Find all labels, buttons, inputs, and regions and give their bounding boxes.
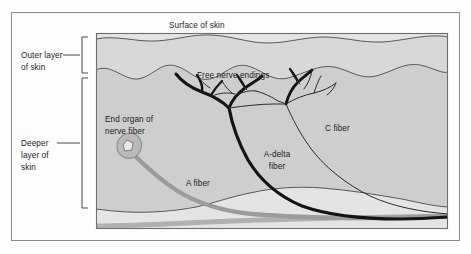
label-end-organ-line2: nerve fiber	[105, 127, 145, 136]
label-a-fiber: A fiber	[186, 179, 210, 188]
label-outer-layer-line2: of skin	[21, 63, 46, 72]
label-free-nerve-endings: Free nerve endings	[197, 71, 269, 80]
label-end-organ-line1: End organ of	[105, 115, 154, 124]
label-a-delta-fiber-line2: fiber	[269, 162, 286, 171]
label-deeper-layer-line2: layer of	[21, 151, 49, 160]
skin-panel	[96, 33, 448, 229]
end-organ-of-nerve-fiber	[117, 133, 142, 158]
label-a-delta-fiber-line1: A-delta	[264, 150, 291, 159]
label-c-fiber: C fiber	[325, 124, 350, 133]
skin-cross-section-diagram: Surface of skin Outer layer of skin Deep…	[0, 0, 471, 254]
skin-nerve-fiber-figure: Surface of skin Outer layer of skin Deep…	[0, 0, 471, 254]
deeper-layer-bracket	[82, 78, 88, 208]
label-deeper-layer-line1: Deeper	[21, 139, 49, 148]
label-outer-layer-line1: Outer layer	[21, 51, 63, 60]
label-deeper-layer-line3: skin	[21, 163, 36, 172]
label-surface-of-skin: Surface of skin	[169, 21, 225, 30]
outer-layer-bracket	[82, 37, 88, 73]
